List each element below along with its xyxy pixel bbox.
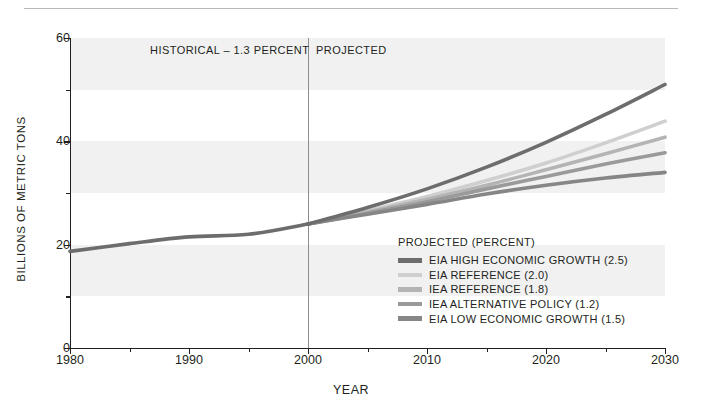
legend-item: IEA ALTERNATIVE POLICY (1.2) (398, 297, 628, 312)
series-line (308, 85, 665, 225)
legend-item: IEA REFERENCE (1.8) (398, 282, 628, 297)
legend-swatch (398, 316, 422, 321)
chart-canvas: 1980199020002010202020300204060 HISTORIC… (0, 0, 702, 416)
legend-item: EIA LOW ECONOMIC GROWTH (1.5) (398, 311, 628, 326)
legend-swatch (398, 273, 422, 278)
legend-swatch (398, 258, 422, 263)
x-axis-title: YEAR (0, 383, 702, 397)
series-lines (0, 0, 702, 416)
legend-swatch (398, 302, 422, 307)
legend-label: EIA REFERENCE (2.0) (429, 269, 548, 281)
legend-rows: EIA HIGH ECONOMIC GROWTH (2.5)EIA REFERE… (398, 253, 628, 326)
y-axis-title: BILLIONS OF METRIC TONS (15, 94, 27, 304)
legend-item: EIA REFERENCE (2.0) (398, 268, 628, 283)
series-line (308, 153, 665, 224)
plot-area: 1980199020002010202020300204060 HISTORIC… (0, 0, 702, 416)
legend-label: IEA REFERENCE (1.8) (429, 283, 548, 295)
legend-label: EIA HIGH ECONOMIC GROWTH (2.5) (429, 254, 628, 266)
legend-label: IEA ALTERNATIVE POLICY (1.2) (429, 298, 599, 310)
legend-label: EIA LOW ECONOMIC GROWTH (1.5) (429, 313, 625, 325)
legend: PROJECTED (PERCENT) EIA HIGH ECONOMIC GR… (398, 236, 628, 326)
legend-swatch (398, 287, 422, 292)
legend-title: PROJECTED (PERCENT) (398, 236, 628, 248)
legend-item: EIA HIGH ECONOMIC GROWTH (2.5) (398, 253, 628, 268)
historical-line (70, 224, 308, 251)
